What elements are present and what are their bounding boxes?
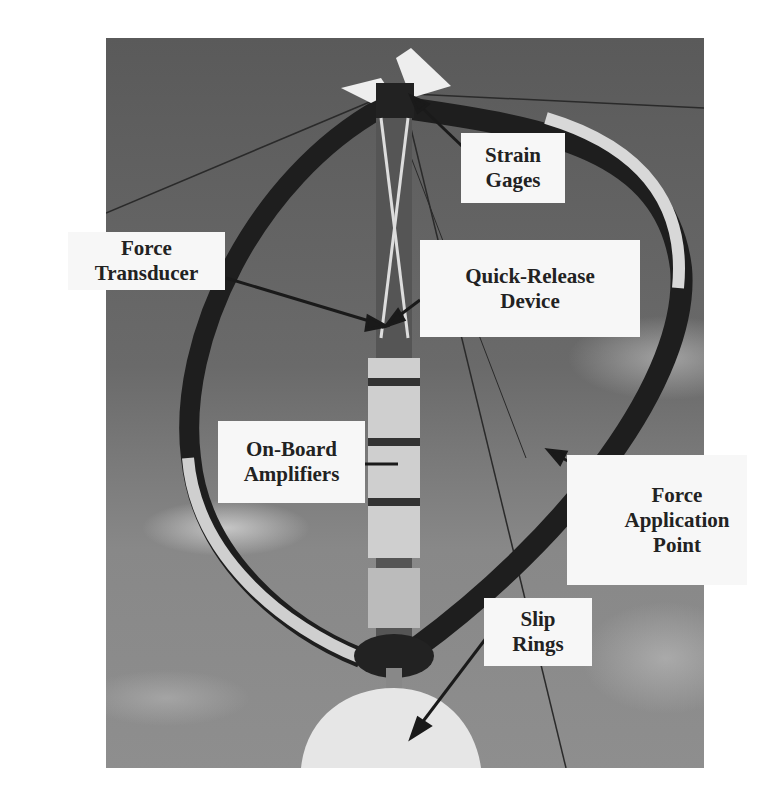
label-line: Transducer xyxy=(95,261,198,286)
label-strain-gages: Strain Gages xyxy=(461,133,565,203)
label-line: Application xyxy=(624,508,729,533)
label-force-application-point: Force Application Point xyxy=(567,455,747,585)
turbine-photo xyxy=(106,38,704,768)
turbine-illustration xyxy=(106,38,704,768)
label-line: Slip xyxy=(520,607,555,632)
label-line: On-Board xyxy=(246,437,337,462)
label-line: Point xyxy=(653,533,701,558)
label-line: Amplifiers xyxy=(244,462,340,487)
label-line: Rings xyxy=(512,632,563,657)
label-line: Device xyxy=(500,289,559,314)
label-quick-release-device: Quick-Release Device xyxy=(420,240,640,337)
label-line: Gages xyxy=(486,168,541,193)
label-slip-rings: Slip Rings xyxy=(484,598,592,666)
label-on-board-amplifiers: On-Board Amplifiers xyxy=(218,421,365,503)
label-line: Force xyxy=(652,483,703,508)
label-line: Strain xyxy=(485,143,541,168)
label-line: Force xyxy=(121,236,172,261)
label-force-transducer: Force Transducer xyxy=(68,232,225,290)
label-line: Quick-Release xyxy=(465,264,594,289)
